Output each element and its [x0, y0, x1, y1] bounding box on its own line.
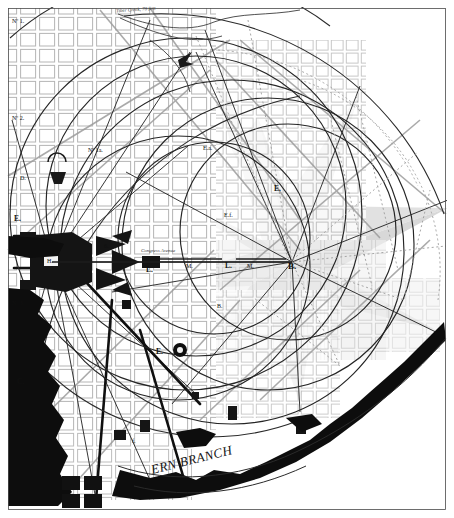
map-canvas	[0, 0, 454, 518]
monument-marker	[173, 343, 187, 357]
city-grid-far-east	[330, 278, 440, 352]
historical-map: Tiber Creek, 78 feet Congress Avenue ERN…	[0, 0, 454, 518]
